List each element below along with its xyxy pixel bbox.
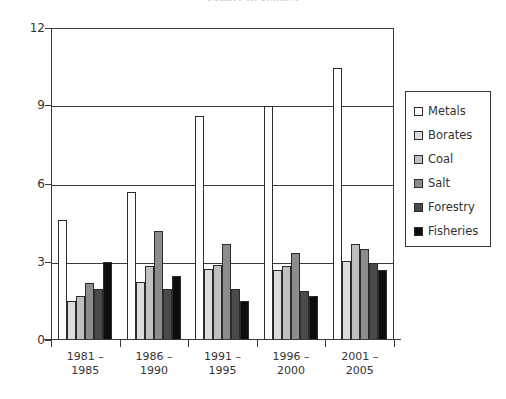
x-tick-mark bbox=[257, 340, 258, 347]
x-tick-mark bbox=[325, 340, 326, 347]
legend-item-forestry[interactable]: Forestry bbox=[414, 195, 490, 219]
x-axis-label-3: 1996 –2000 bbox=[257, 350, 326, 390]
y-tick-label-0: 0 bbox=[5, 334, 45, 346]
legend-item-borates[interactable]: Borates bbox=[414, 123, 490, 147]
legend-swatch-icon bbox=[414, 107, 423, 116]
bar-coal-3[interactable] bbox=[282, 266, 291, 340]
bar-forestry-3[interactable] bbox=[300, 291, 309, 340]
legend-label: Forestry bbox=[428, 200, 475, 214]
bar-metals-4[interactable] bbox=[333, 68, 342, 340]
bar-group bbox=[257, 28, 326, 340]
y-tick-label-6: 6 bbox=[5, 178, 45, 190]
x-axis-line bbox=[44, 339, 401, 340]
bar-salt-3[interactable] bbox=[291, 253, 300, 340]
legend-item-fisheries[interactable]: Fisheries bbox=[414, 219, 490, 243]
bar-fisheries-1[interactable] bbox=[172, 276, 181, 340]
bar-borates-1[interactable] bbox=[136, 282, 145, 341]
bar-salt-1[interactable] bbox=[154, 231, 163, 340]
legend-label: Coal bbox=[428, 152, 453, 166]
bar-metals-3[interactable] bbox=[264, 106, 273, 340]
bar-group bbox=[51, 28, 120, 340]
legend-label: Metals bbox=[428, 104, 466, 118]
bar-forestry-2[interactable] bbox=[231, 289, 240, 340]
bar-coal-1[interactable] bbox=[145, 266, 154, 340]
x-axis-labels: 1981 –19851986 –19901991 –19951996 –2000… bbox=[51, 350, 394, 390]
x-axis-label-0: 1981 –1985 bbox=[51, 350, 120, 390]
bar-group bbox=[325, 28, 394, 340]
x-axis-label-line: 1991 – bbox=[188, 350, 257, 364]
bar-forestry-0[interactable] bbox=[94, 289, 103, 340]
bar-fisheries-2[interactable] bbox=[240, 301, 249, 340]
x-axis-label-4: 2001 –2005 bbox=[325, 350, 394, 390]
bar-forestry-1[interactable] bbox=[163, 289, 172, 340]
bar-group bbox=[188, 28, 257, 340]
y-tick-label-12: 12 bbox=[5, 22, 45, 34]
y-tick-label-9: 9 bbox=[5, 99, 45, 111]
x-axis-label-line: 1985 bbox=[51, 364, 120, 378]
x-axis-label-line: 1995 bbox=[188, 364, 257, 378]
bar-metals-1[interactable] bbox=[127, 192, 136, 340]
legend-label: Salt bbox=[428, 176, 450, 190]
bar-coal-4[interactable] bbox=[351, 244, 360, 340]
bar-salt-2[interactable] bbox=[222, 244, 231, 340]
bar-forestry-4[interactable] bbox=[369, 263, 378, 340]
bar-salt-0[interactable] bbox=[85, 283, 94, 340]
bar-borates-3[interactable] bbox=[273, 270, 282, 340]
bar-metals-0[interactable] bbox=[58, 220, 67, 340]
bar-salt-4[interactable] bbox=[360, 249, 369, 340]
x-tick-mark bbox=[394, 340, 395, 347]
x-axis-label-2: 1991 –1995 bbox=[188, 350, 257, 390]
x-axis-label-line: 1990 bbox=[120, 364, 189, 378]
x-tick-mark bbox=[51, 340, 52, 347]
x-axis-label-line: 1981 – bbox=[51, 350, 120, 364]
bar-groups bbox=[51, 28, 394, 340]
x-axis-label-line: 1986 – bbox=[120, 350, 189, 364]
bar-borates-4[interactable] bbox=[342, 261, 351, 340]
bar-fisheries-4[interactable] bbox=[378, 270, 387, 340]
bar-metals-2[interactable] bbox=[195, 116, 204, 340]
x-axis-label-line: 1996 – bbox=[257, 350, 326, 364]
legend-label: Borates bbox=[428, 128, 472, 142]
legend-item-metals[interactable]: Metals bbox=[414, 99, 490, 123]
y-tick-label-3: 3 bbox=[5, 256, 45, 268]
legend-swatch-icon bbox=[414, 203, 423, 212]
chart-legend: MetalsBoratesCoalSaltForestryFisheries bbox=[405, 91, 491, 247]
legend-label: Fisheries bbox=[428, 224, 478, 238]
bar-chart: Export Revenues 12 9 6 3 0 1981 –1985198… bbox=[0, 0, 506, 399]
bar-group bbox=[120, 28, 189, 340]
x-tick-mark bbox=[120, 340, 121, 347]
bar-borates-2[interactable] bbox=[204, 269, 213, 341]
legend-swatch-icon bbox=[414, 155, 423, 164]
bar-fisheries-0[interactable] bbox=[103, 262, 112, 340]
bar-coal-0[interactable] bbox=[76, 296, 85, 340]
bar-coal-2[interactable] bbox=[213, 265, 222, 340]
legend-item-coal[interactable]: Coal bbox=[414, 147, 490, 171]
legend-swatch-icon bbox=[414, 227, 423, 236]
chart-title: Export Revenues bbox=[0, 0, 506, 1]
bar-fisheries-3[interactable] bbox=[309, 296, 318, 340]
bar-borates-0[interactable] bbox=[67, 301, 76, 340]
x-tick-mark bbox=[188, 340, 189, 347]
legend-swatch-icon bbox=[414, 131, 423, 140]
x-axis-label-line: 2005 bbox=[325, 364, 394, 378]
x-axis-label-1: 1986 –1990 bbox=[120, 350, 189, 390]
x-axis-label-line: 2000 bbox=[257, 364, 326, 378]
legend-swatch-icon bbox=[414, 179, 423, 188]
legend-item-salt[interactable]: Salt bbox=[414, 171, 490, 195]
x-axis-label-line: 2001 – bbox=[325, 350, 394, 364]
